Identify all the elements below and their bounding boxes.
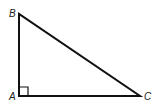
vertex-label-c: C: [144, 91, 152, 102]
vertex-label-b: B: [9, 8, 16, 19]
triangle-diagram: B A C: [0, 0, 161, 104]
triangle-abc: [19, 14, 140, 96]
vertex-label-a: A: [8, 91, 16, 102]
right-angle-marker: [19, 87, 28, 96]
